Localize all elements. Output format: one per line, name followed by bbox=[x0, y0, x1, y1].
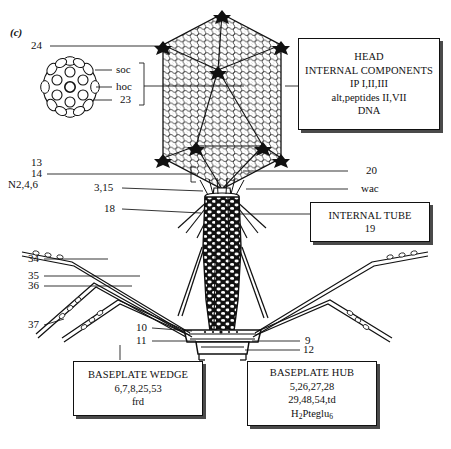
callout-11: 11 bbox=[136, 335, 147, 347]
callout-3-15: 3,15 bbox=[94, 182, 113, 194]
head-box-line-5: DNA bbox=[358, 104, 381, 117]
baseplate-hub-box: BASEPLATE HUB 5,26,27,28 29,48,54,td H2P… bbox=[247, 361, 377, 426]
internal-tube-box: INTERNAL TUBE 19 bbox=[310, 202, 430, 242]
callout-20: 20 bbox=[366, 165, 377, 177]
callout-n246: N2,4,6 bbox=[8, 179, 38, 191]
wedge-line-3: frd bbox=[132, 395, 144, 408]
capsid-head bbox=[154, 10, 290, 189]
panel-label: (c) bbox=[10, 26, 22, 38]
head-box-line-2: INTERNAL COMPONENTS bbox=[305, 64, 433, 77]
tail-sheath bbox=[203, 197, 241, 331]
hub-formula-pteglu: Pteglu bbox=[302, 408, 329, 419]
wedge-line-1: BASEPLATE WEDGE bbox=[88, 368, 188, 381]
internal-tube-line-2: 19 bbox=[365, 222, 376, 235]
capsomer-inset bbox=[41, 57, 100, 118]
callout-soc: soc bbox=[116, 64, 131, 76]
callout-12: 12 bbox=[303, 344, 314, 356]
hub-line-1: BASEPLATE HUB bbox=[270, 366, 354, 379]
callout-wac: wac bbox=[361, 183, 379, 195]
baseplate-wedge-box: BASEPLATE WEDGE 6,7,8,25,53 frd bbox=[73, 361, 203, 416]
head-components-box: HEAD INTERNAL COMPONENTS IP I,II,III alt… bbox=[298, 38, 440, 130]
callout-18: 18 bbox=[104, 203, 115, 215]
callout-34: 34 bbox=[28, 253, 39, 265]
hub-formula: H2Pteglu6 bbox=[291, 407, 333, 421]
figure-canvas: (c) 24 soc hoc 23 13 14 N2,4,6 3,15 18 2… bbox=[0, 0, 451, 449]
baseplate bbox=[184, 330, 261, 360]
internal-tube-line-1: INTERNAL TUBE bbox=[328, 209, 411, 222]
head-box-line-3: IP I,II,III bbox=[350, 77, 388, 90]
callout-36: 36 bbox=[28, 280, 39, 292]
callout-hoc: hoc bbox=[116, 81, 132, 93]
callout-23: 23 bbox=[120, 94, 131, 106]
callout-37: 37 bbox=[28, 319, 39, 331]
head-box-line-4: alt,peptides II,VII bbox=[332, 91, 407, 104]
callout-10: 10 bbox=[136, 322, 147, 334]
hub-formula-sub-6: 6 bbox=[329, 411, 333, 420]
callout-24: 24 bbox=[31, 40, 42, 52]
head-box-line-1: HEAD bbox=[354, 50, 384, 63]
hub-line-2: 5,26,27,28 bbox=[290, 380, 335, 393]
hub-line-3: 29,48,54,td bbox=[288, 393, 336, 406]
hub-formula-h: H bbox=[291, 408, 299, 419]
wedge-line-2: 6,7,8,25,53 bbox=[114, 382, 161, 395]
